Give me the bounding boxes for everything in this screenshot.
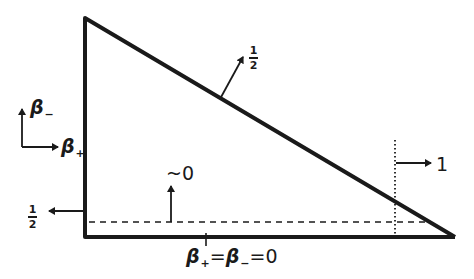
hypotenuse-normal-arrow <box>220 57 243 99</box>
left-edge-half-label: 12 <box>28 200 37 230</box>
triangle-outline <box>85 18 455 237</box>
beta-plus-label: β+ <box>61 137 85 159</box>
beta-minus-label: β− <box>30 98 54 120</box>
near-zero-label: ~0 <box>166 164 194 183</box>
one-label: 1 <box>436 155 448 174</box>
origin-label: β+=β−=0 <box>186 247 278 269</box>
hypotenuse-half-label: 12 <box>249 41 258 71</box>
